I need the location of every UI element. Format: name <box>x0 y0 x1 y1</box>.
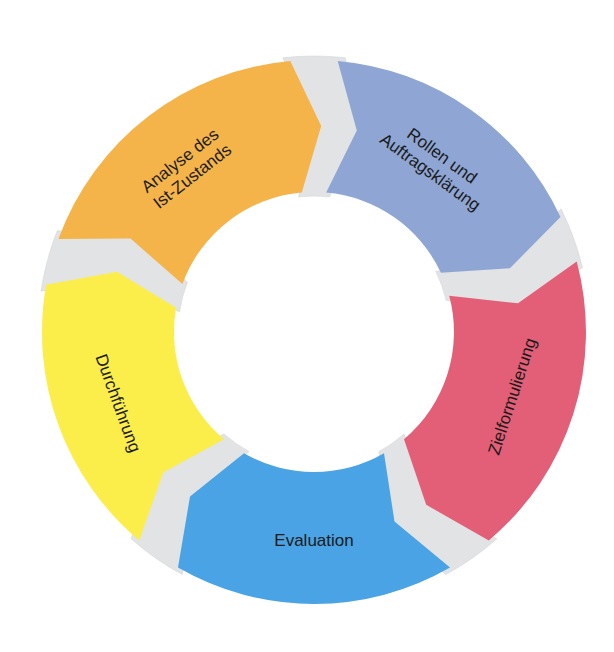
segment-label-line: Evaluation <box>274 531 353 550</box>
segments <box>42 61 586 604</box>
segment-label-evaluation: Evaluation <box>274 531 353 550</box>
cycle-diagram: Analyse desIst-ZustandsRollen undAuftrag… <box>0 0 614 652</box>
segment-ziel <box>404 262 586 541</box>
